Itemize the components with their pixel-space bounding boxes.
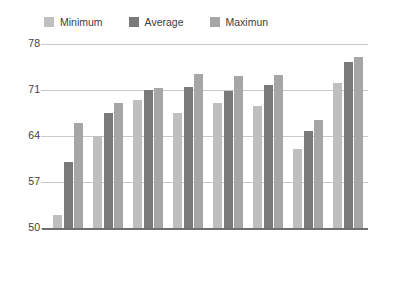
x-axis-labels [48, 228, 368, 300]
bar [64, 162, 73, 228]
bar [114, 103, 123, 228]
bar [154, 88, 163, 228]
legend-item-label: Average [145, 17, 184, 28]
y-axis-tick-label: 57 [10, 176, 40, 187]
bar [253, 106, 262, 228]
bar-group [248, 44, 288, 228]
chart-legend: MinimumAverageMaximun [44, 13, 268, 31]
y-axis-tick [41, 44, 48, 45]
bar-group [208, 44, 248, 228]
bar [74, 123, 83, 228]
bar [104, 113, 113, 228]
bar [314, 120, 323, 228]
y-axis-tick [41, 182, 48, 183]
legend-item: Minimum [44, 17, 103, 28]
bar [133, 100, 142, 228]
bar [173, 113, 182, 228]
bar [304, 131, 313, 228]
bar [293, 149, 302, 228]
bar [184, 87, 193, 228]
legend-item: Average [129, 17, 184, 28]
y-axis-tick-label: 50 [10, 222, 40, 233]
bar [53, 215, 62, 228]
bar-group [88, 44, 128, 228]
bar [274, 75, 283, 228]
y-axis-tick [41, 90, 48, 91]
bar-group [328, 44, 368, 228]
bar-group [128, 44, 168, 228]
bar-group [168, 44, 208, 228]
y-axis-tick-label: 71 [10, 84, 40, 95]
bar [93, 136, 102, 228]
bar [194, 74, 203, 228]
y-axis-tick-label: 64 [10, 130, 40, 141]
bar [224, 91, 233, 228]
bar [234, 76, 243, 228]
bar [344, 62, 353, 228]
y-axis-tick [41, 136, 48, 137]
bar [264, 85, 273, 228]
bar-chart: MinimumAverageMaximun 5057647178 [0, 0, 393, 300]
y-axis-tick-label: 78 [10, 38, 40, 49]
bar [354, 57, 363, 228]
legend-item: Maximun [210, 17, 269, 28]
y-axis-labels: 5057647178 [8, 44, 40, 228]
plot-area [48, 44, 368, 228]
bar [144, 90, 153, 228]
legend-item-label: Minimum [60, 17, 103, 28]
bars-layer [48, 44, 368, 228]
bar [333, 83, 342, 228]
bar-group [48, 44, 88, 228]
legend-swatch-icon [129, 17, 139, 27]
legend-swatch-icon [210, 17, 220, 27]
legend-swatch-icon [44, 17, 54, 27]
legend-item-label: Maximun [226, 17, 269, 28]
bar [213, 103, 222, 228]
bar-group [288, 44, 328, 228]
